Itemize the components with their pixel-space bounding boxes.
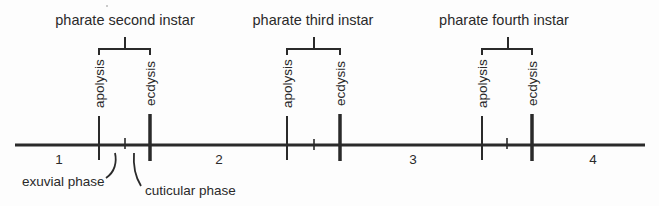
ecdysis-label: ecdysis — [525, 61, 540, 106]
stage-number-1: 1 — [55, 152, 63, 167]
diagram-canvas: pharate second instar apolysis ecdysis p… — [0, 0, 659, 206]
instar-group-third: pharate third instar apolysis ecdysis — [253, 12, 374, 161]
exuvial-phase-leader — [106, 153, 116, 178]
molting-timeline-diagram: pharate second instar apolysis ecdysis p… — [0, 0, 659, 206]
instar-title: pharate second instar — [55, 12, 195, 28]
instar-group-second: pharate second instar apolysis ecdysis — [55, 12, 195, 161]
ecdysis-label: ecdysis — [333, 61, 348, 106]
apolysis-label: apolysis — [280, 59, 295, 108]
stage-number-3: 3 — [409, 152, 417, 167]
instar-title: pharate fourth instar — [439, 12, 569, 28]
instar-title: pharate third instar — [253, 12, 374, 28]
apolysis-label: apolysis — [475, 59, 490, 108]
cuticular-phase-leader — [134, 153, 141, 186]
apolysis-label: apolysis — [92, 59, 107, 108]
ecdysis-label: ecdysis — [143, 61, 158, 106]
instar-group-fourth: pharate fourth instar apolysis ecdysis — [439, 12, 569, 161]
cuticular-phase-label: cuticular phase — [145, 183, 236, 198]
stage-number-4: 4 — [589, 152, 597, 167]
bracket — [482, 37, 532, 55]
bracket — [287, 37, 340, 55]
exuvial-phase-label: exuvial phase — [22, 174, 105, 189]
stage-number-2: 2 — [215, 152, 223, 167]
scan-speck — [106, 5, 108, 7]
bracket — [99, 37, 150, 55]
